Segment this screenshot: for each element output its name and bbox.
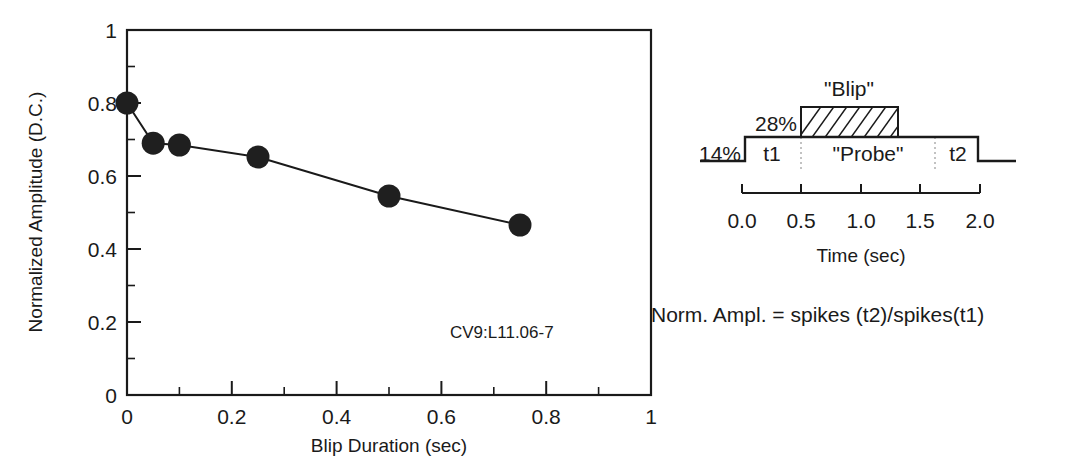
high-level-label: 28% <box>755 112 797 135</box>
time-axis-title: Time (sec) <box>816 245 905 266</box>
x-tick-label-1: 1 <box>645 405 657 428</box>
blip-label: "Blip" <box>824 77 874 100</box>
y-tick-label-0.4: 0.4 <box>88 238 118 261</box>
data-series-line <box>127 103 520 225</box>
time-tick-label-1.0: 1.0 <box>846 209 875 232</box>
y-axis-title: Normalized Amplitude (D.C.) <box>25 92 46 333</box>
data-point-4 <box>378 185 401 208</box>
data-point-3 <box>247 146 270 169</box>
probe-label: "Probe" <box>833 142 904 165</box>
y-tick-label-0.8: 0.8 <box>88 92 117 115</box>
plot-frame <box>127 30 651 395</box>
time-tick-label-0.0: 0.0 <box>727 209 756 232</box>
y-tick-label-0.2: 0.2 <box>88 311 117 334</box>
y-tick-label-0.6: 0.6 <box>88 165 117 188</box>
blip-rectangle <box>795 101 916 143</box>
time-tick-label-0.5: 0.5 <box>786 209 815 232</box>
baseline-label: 14% <box>699 142 741 165</box>
x-tick-label-0.2: 0.2 <box>217 405 246 428</box>
data-point-2 <box>168 134 191 157</box>
figure-svg: 0 0.2 0.4 0.6 0.8 1 0 0.2 0.4 0.6 0.8 1 … <box>0 0 1082 465</box>
time-ruler <box>742 184 980 193</box>
data-point-1 <box>142 132 165 155</box>
plot-annotation: CV9:L11.06-7 <box>450 323 554 342</box>
data-point-0 <box>116 92 139 115</box>
x-tick-label-0.4: 0.4 <box>322 405 352 428</box>
x-axis-title: Blip Duration (sec) <box>311 435 467 456</box>
t1-label: t1 <box>763 142 781 165</box>
time-tick-label-1.5: 1.5 <box>905 209 934 232</box>
x-tick-label-0.8: 0.8 <box>532 405 561 428</box>
time-tick-label-2.0: 2.0 <box>965 209 994 232</box>
t2-label: t2 <box>949 142 967 165</box>
y-tick-label-1: 1 <box>105 19 117 42</box>
y-tick-label-0: 0 <box>105 384 117 407</box>
normalized-amplitude-formula: Norm. Ampl. = spikes (t2)/spikes(t1) <box>651 303 984 326</box>
figure-root: 0 0.2 0.4 0.6 0.8 1 0 0.2 0.4 0.6 0.8 1 … <box>0 0 1082 465</box>
stimulus-diagram-panel: "Blip" 28% 14% t1 "Probe" t2 0.0 0.5 1.0… <box>699 77 1016 266</box>
x-tick-label-0.6: 0.6 <box>427 405 456 428</box>
line-plot-panel: 0 0.2 0.4 0.6 0.8 1 0 0.2 0.4 0.6 0.8 1 … <box>25 19 657 456</box>
x-tick-label-0: 0 <box>121 405 133 428</box>
data-point-5 <box>509 214 532 237</box>
x-axis-minor-ticks <box>179 387 598 395</box>
